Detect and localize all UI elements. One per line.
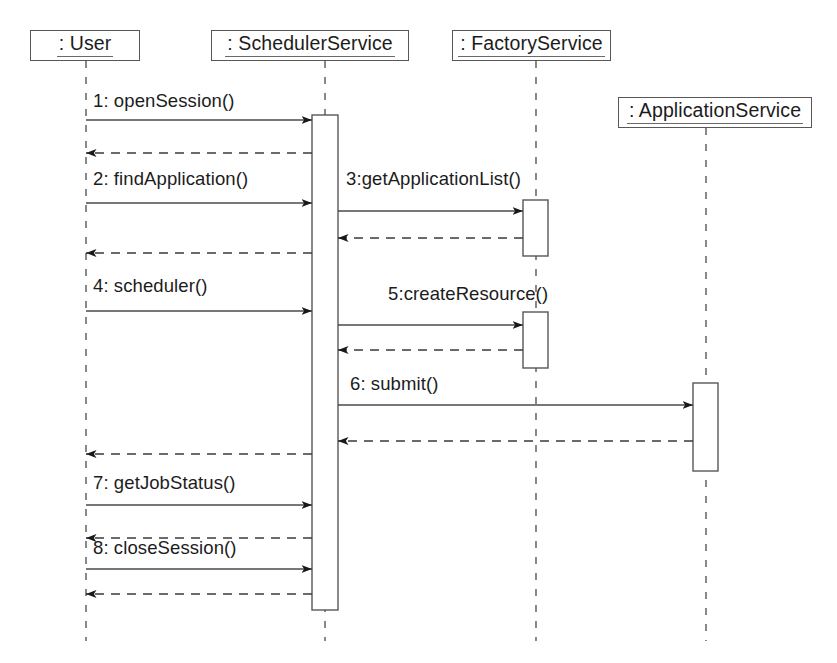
- uml-sequence-diagram: : User: SchedulerService: FactoryService…: [0, 0, 837, 663]
- lifeline-header-factory[interactable]: : FactoryService: [452, 30, 611, 61]
- lifeline-label-user: : User: [57, 34, 114, 58]
- message-label-1: 1: openSession(): [93, 92, 234, 111]
- message-label-8: 8: closeSession(): [93, 539, 237, 558]
- message-label-6: 6: submit(): [350, 375, 438, 394]
- message-arrows-group: [86, 120, 693, 594]
- activation-bar-act-factory-2[interactable]: [523, 312, 548, 368]
- lifeline-label-factory: : FactoryService: [458, 34, 604, 58]
- activation-boxes-group: [312, 115, 718, 610]
- message-label-4: 4: scheduler(): [93, 277, 208, 296]
- activation-bar-act-application[interactable]: [693, 383, 718, 471]
- message-label-5: 5:createResource(): [388, 285, 548, 304]
- activation-bar-act-factory-1[interactable]: [523, 200, 548, 256]
- activation-bar-act-scheduler[interactable]: [312, 115, 338, 610]
- message-label-7: 7: getJobStatus(): [93, 474, 236, 493]
- lifeline-header-application[interactable]: : ApplicationService: [618, 97, 812, 128]
- lifeline-label-scheduler: : SchedulerService: [225, 34, 394, 58]
- message-label-2: 2: findApplication(): [93, 170, 248, 189]
- lifeline-label-application: : ApplicationService: [627, 101, 803, 125]
- lifeline-header-scheduler[interactable]: : SchedulerService: [211, 30, 409, 61]
- message-label-3: 3:getApplicationList(): [346, 170, 521, 189]
- lifeline-header-user[interactable]: : User: [30, 30, 140, 61]
